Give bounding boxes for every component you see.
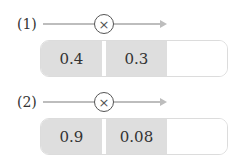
calculation-box: 0.9 0.08 [40,118,228,155]
arrow-head-icon [160,20,167,28]
operand-cell: 0.3 [106,41,167,76]
operand-cell: 0.4 [41,41,102,76]
operand-cell: 0.08 [106,119,167,154]
problem-1: (1) × 0.4 0.3 [0,0,237,80]
calculation-box: 0.4 0.3 [40,40,228,77]
answer-cell[interactable] [167,119,227,154]
problem-2: (2) × 0.9 0.08 [0,78,237,158]
answer-cell[interactable] [167,41,227,76]
circled-times-icon: × [94,14,114,34]
problem-label: (1) [17,16,37,32]
problem-label: (2) [17,94,37,110]
operand-cell: 0.9 [41,119,102,154]
arrow-head-icon [160,98,167,106]
circled-times-icon: × [94,92,114,112]
